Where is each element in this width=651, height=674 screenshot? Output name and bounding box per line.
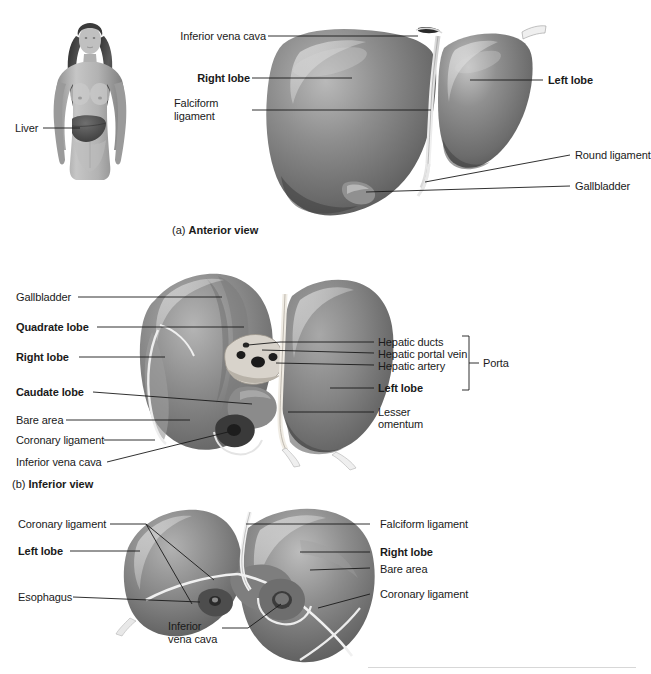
label-right-lobe-a: Right lobe bbox=[166, 72, 250, 85]
porta-bracket bbox=[462, 336, 469, 390]
label-coronary-ligament-c-left: Coronary ligament bbox=[18, 518, 106, 531]
label-inferior-vena-cava-c-line2: vena cava bbox=[168, 633, 217, 646]
label-bare-area-c: Bare area bbox=[380, 563, 427, 576]
label-quadrate-lobe-b: Quadrate lobe bbox=[16, 321, 89, 334]
leader-round-ligament-a bbox=[425, 155, 570, 182]
label-hepatic-ducts-b: Hepatic ducts bbox=[378, 336, 443, 349]
label-caudate-lobe-b: Caudate lobe bbox=[16, 386, 84, 399]
label-right-lobe-c: Right lobe bbox=[380, 546, 433, 559]
caption-panel-a: (a) Anterior view bbox=[172, 224, 258, 236]
label-falciform-ligament-c: Falciform ligament bbox=[380, 518, 468, 531]
label-lesser-omentum-b-line1: Lesser bbox=[378, 406, 410, 419]
label-coronary-ligament-c-right: Coronary ligament bbox=[380, 588, 468, 601]
label-falciform-a-line2: ligament bbox=[174, 110, 215, 123]
label-inferior-vena-cava-c-line1: Inferior bbox=[168, 620, 201, 633]
label-right-lobe-b: Right lobe bbox=[16, 351, 69, 364]
label-gallbladder-b: Gallbladder bbox=[16, 291, 71, 304]
label-left-lobe-a: Left lobe bbox=[548, 74, 593, 87]
label-bare-area-b: Bare area bbox=[16, 414, 63, 427]
hepatic-portal-vein-opening bbox=[251, 357, 265, 368]
label-hepatic-portal-vein-b: Hepatic portal vein bbox=[378, 348, 467, 361]
footer-rule bbox=[368, 667, 636, 668]
label-liver-body: Liver bbox=[15, 122, 38, 135]
label-falciform-a-line1: Falciform bbox=[174, 97, 218, 110]
label-inferior-vena-cava-b: Inferior vena cava bbox=[16, 456, 102, 469]
label-hepatic-artery-b: Hepatic artery bbox=[378, 360, 445, 373]
label-gallbladder-a: Gallbladder bbox=[575, 180, 630, 193]
label-left-lobe-b: Left lobe bbox=[378, 382, 423, 395]
caption-panel-b-title: Inferior view bbox=[29, 478, 94, 490]
label-round-ligament-a: Round ligament bbox=[575, 149, 651, 162]
label-coronary-ligament-b: Coronary ligament bbox=[16, 434, 104, 447]
caption-panel-b: (b) Inferior view bbox=[12, 478, 93, 490]
label-left-lobe-c: Left lobe bbox=[18, 545, 63, 558]
label-lesser-omentum-b-line2: omentum bbox=[378, 418, 423, 431]
liver-posterior-art bbox=[70, 509, 375, 662]
hepatic-duct-opening bbox=[237, 351, 246, 359]
caption-panel-a-prefix: (a) bbox=[172, 224, 189, 236]
label-inferior-vena-cava-a: Inferior vena cava bbox=[168, 30, 266, 43]
label-esophagus-c: Esophagus bbox=[18, 591, 72, 604]
human-body-silhouette-art bbox=[43, 23, 126, 180]
label-porta-b: Porta bbox=[483, 357, 509, 370]
hepatic-artery-opening bbox=[269, 353, 278, 361]
left-lobe-shape-b bbox=[280, 280, 394, 453]
caption-panel-b-prefix: (b) bbox=[12, 478, 29, 490]
liver-anterior-art bbox=[252, 26, 570, 216]
caption-panel-a-title: Anterior view bbox=[189, 224, 259, 236]
